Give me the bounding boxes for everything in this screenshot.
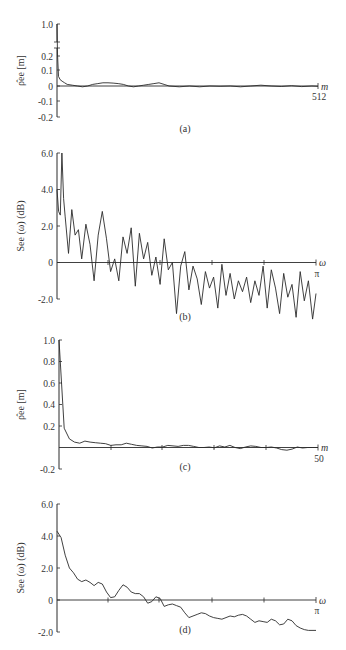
y-tick-label: 0.2: [43, 422, 55, 432]
y-tick-label: 1.0: [41, 20, 53, 30]
y-tick-label: 4.0: [41, 532, 53, 542]
y-tick-label: 2.0: [41, 222, 53, 232]
y-tick-label: -2.0: [38, 628, 53, 638]
y-tick-label: 0.4: [43, 400, 55, 410]
panel-c-autocorrelation-50: 1.00.80.60.40.2-0.2m50ρ̂ee [m](c): [15, 336, 328, 475]
panel-caption: (d): [179, 624, 191, 636]
y-tick-label: 0.2: [41, 52, 53, 62]
data-series-line: [57, 153, 316, 319]
y-tick-label: -0.1: [38, 97, 53, 107]
y-tick-label: 0: [48, 258, 53, 268]
x-axis-variable: ω: [319, 257, 326, 268]
y-tick-label: -2.0: [38, 295, 53, 305]
y-tick-label: 1.0: [43, 336, 55, 346]
panel-a-autocorrelation-512: 1.00.20.10-0.1-0.2m512ρ̂ee [m](a): [15, 20, 328, 136]
y-tick-label: -0.2: [38, 113, 53, 123]
data-series-line: [57, 531, 316, 630]
y-axis-label: ρ̂ee [m]: [15, 389, 26, 420]
panel-caption: (a): [179, 123, 190, 135]
x-axis-variable: ω: [319, 595, 326, 606]
data-series-line: [57, 24, 318, 87]
y-tick-label: -0.2: [40, 465, 55, 475]
panel-b-periodogram: 6.04.02.00-2.0ωπSee (ω) (dB)(b): [15, 149, 326, 324]
y-tick-label: 6.0: [41, 500, 53, 510]
y-tick-label: 4.0: [41, 185, 53, 195]
x-axis-variable: m: [321, 442, 328, 453]
y-tick-label: 2.0: [41, 564, 53, 574]
y-tick-label: 0: [48, 596, 53, 606]
panel-d-smoothed-spectrum: 6.04.02.00-2.0ωπSee (ω) (dB)(d): [15, 500, 326, 638]
y-tick-label: 0.8: [43, 357, 55, 367]
y-tick-label: 0.6: [43, 379, 55, 389]
x-axis-end-label: π: [315, 269, 320, 279]
x-axis-variable: m: [321, 81, 328, 92]
y-axis-label: See (ω) (dB): [15, 542, 27, 593]
data-series-line: [59, 340, 318, 450]
figure: 1.00.20.10-0.1-0.2m512ρ̂ee [m](a) 6.04.0…: [0, 0, 346, 650]
y-tick-label: 6.0: [41, 149, 53, 159]
y-axis-label: See (ω) (dB): [15, 200, 27, 251]
y-tick-label: 0.1: [41, 66, 53, 76]
x-axis-end-label: 512: [312, 92, 327, 102]
x-axis-end-label: 50: [314, 454, 324, 464]
y-tick-label: 0: [48, 82, 53, 92]
panel-caption: (c): [179, 461, 190, 473]
y-axis-label: ρ̂ee [m]: [15, 55, 26, 86]
panel-caption: (b): [179, 311, 191, 323]
x-axis-end-label: π: [315, 606, 320, 616]
